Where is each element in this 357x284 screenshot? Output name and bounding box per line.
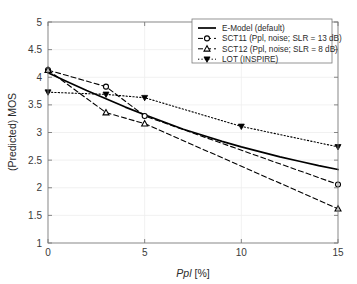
y-tick-label: 3: [36, 127, 42, 138]
legend-label: SCT12 (Ppl, noise; SLR = 8 dB): [222, 45, 338, 54]
legend-label: SCT11 (Ppl, noise; SLR = 13 dB): [222, 34, 342, 43]
data-point-marker: [104, 84, 109, 89]
x-axis-title: Ppl [%]: [176, 267, 209, 279]
y-tick-label: 5: [36, 17, 42, 28]
y-tick-label: 2.5: [28, 155, 42, 166]
legend-label: LOT (INSPIRE): [222, 55, 279, 64]
x-tick-label: 15: [332, 247, 344, 258]
x-tick-label: 0: [45, 247, 51, 258]
y-tick-label: 2: [36, 182, 42, 193]
y-tick-label: 4: [36, 72, 42, 83]
chart-figure: 051015 11.522.533.544.55 Ppl [%] (Predic…: [0, 0, 357, 284]
y-tick-label: 4.5: [28, 44, 42, 55]
data-point-marker: [142, 113, 147, 118]
y-tick-label: 1: [36, 238, 42, 249]
legend-label: E-Model (default): [222, 24, 285, 33]
x-tick-label: 5: [142, 247, 148, 258]
y-tick-label: 3.5: [28, 99, 42, 110]
chart-legend: E-Model (default)SCT11 (Ppl, noise; SLR …: [192, 19, 342, 64]
y-axis-title: (Predicted) MOS: [6, 93, 18, 171]
y-tick-label: 1.5: [28, 210, 42, 221]
chart-canvas: 051015 11.522.533.544.55 Ppl [%] (Predic…: [0, 0, 357, 284]
data-point-marker: [205, 36, 210, 41]
x-tick-label: 10: [236, 247, 248, 258]
